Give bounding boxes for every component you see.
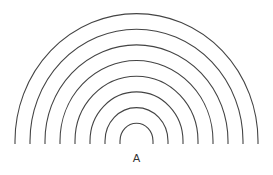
wavefront-arc [105,108,168,144]
wavefront-arc [15,14,258,144]
source-label: A [133,152,141,165]
wavefront-diagram: A [0,0,273,175]
wavefront-arc [90,92,183,144]
wavefront-arc [45,45,228,144]
wavefront-arc [75,76,198,144]
wavefront-arc [30,29,243,144]
wavefront-arc [60,61,213,144]
wavefront-arc [120,123,153,144]
concentric-arcs [15,14,258,144]
